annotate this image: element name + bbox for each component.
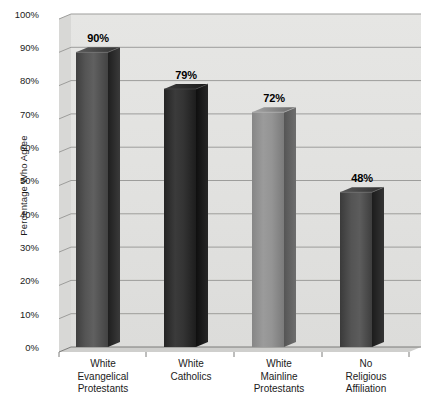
- bar-front-face: [76, 52, 108, 347]
- plot-area: [0, 0, 433, 414]
- bar-chart: Percentage Who Agree 100% 90% 80% 70% 60…: [0, 0, 433, 414]
- bar-front-face: [340, 192, 372, 347]
- x-axis-ticks: [59, 352, 409, 357]
- bar-white-catholics[interactable]: [164, 84, 208, 347]
- bar-side-face: [372, 187, 384, 347]
- bar-front-face: [252, 112, 284, 347]
- bar-front-face: [164, 89, 196, 347]
- x-category-line: Religious: [314, 371, 418, 384]
- x-category-line: No: [314, 358, 418, 371]
- bar-value-label-1: 79%: [164, 70, 208, 81]
- bar-side-face: [108, 47, 120, 347]
- x-axis-category-labels: White Evangelical Protestants White Cath…: [0, 358, 433, 414]
- bar-white-evangelical-protestants[interactable]: [76, 47, 120, 347]
- bar-value-label-2: 72%: [252, 93, 296, 104]
- bar-side-face: [196, 84, 208, 347]
- bar-side-face: [284, 107, 296, 347]
- bar-value-label-3: 48%: [340, 173, 384, 184]
- bar-no-religious-affiliation[interactable]: [340, 187, 384, 347]
- bar-value-label-0: 90%: [76, 33, 120, 44]
- bar-white-mainline-protestants[interactable]: [252, 107, 296, 347]
- x-category-line: Affiliation: [314, 383, 418, 396]
- x-category-line: Protestants: [51, 383, 155, 396]
- chart-floor: [59, 347, 421, 352]
- x-category-label-3: No Religious Affiliation: [314, 358, 418, 396]
